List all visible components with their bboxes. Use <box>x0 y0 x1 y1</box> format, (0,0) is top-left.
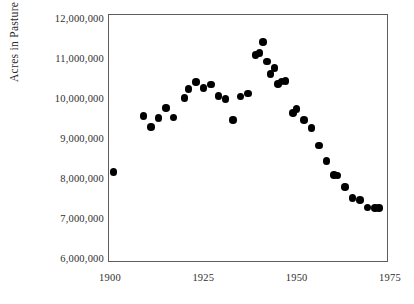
chart-figure: Acres in Pasture 6,000,0007,000,0008,000… <box>0 0 414 304</box>
y-axis-tick-label: 7,000,000 <box>8 213 104 224</box>
x-axis-tick-label: 1925 <box>173 272 233 283</box>
y-axis-tick-labels: 6,000,0007,000,0008,000,0009,000,00010,0… <box>0 0 104 304</box>
y-axis-tick-label: 6,000,000 <box>8 253 104 264</box>
y-axis-tick-label: 9,000,000 <box>8 133 104 144</box>
x-axis-tick-label: 1975 <box>360 272 414 283</box>
plot-area <box>108 14 388 262</box>
y-axis-tick-label: 12,000,000 <box>8 13 104 24</box>
x-axis-tick-label: 1950 <box>267 272 327 283</box>
y-axis-tick-label: 11,000,000 <box>8 53 104 64</box>
x-axis-tick-label: 1900 <box>80 272 140 283</box>
y-axis-tick-label: 8,000,000 <box>8 173 104 184</box>
y-axis-tick-label: 10,000,000 <box>8 93 104 104</box>
